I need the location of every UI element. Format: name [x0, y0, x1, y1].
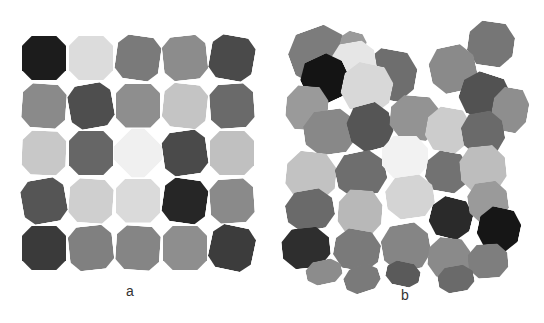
panel-a-ordered-grid	[20, 34, 260, 276]
cube-r5-c2	[67, 224, 115, 272]
cube-r3-c2	[69, 131, 113, 175]
cube-r2-c4	[161, 81, 209, 129]
cube-r1-c4	[161, 34, 209, 82]
cube-r1-c2	[69, 36, 113, 80]
cube-r3-c4	[160, 128, 210, 178]
cube-r2-c1	[21, 82, 68, 129]
cube-r4-c2	[68, 177, 115, 224]
cube-r2-c2	[66, 80, 117, 131]
cube-r1-c5	[207, 33, 258, 84]
cube-r4-c3	[116, 179, 160, 223]
cube	[382, 136, 428, 178]
cube-r4-c5	[209, 177, 256, 224]
cube-r5-c1	[22, 226, 66, 270]
cube-r2-c5	[209, 82, 256, 129]
cube-r5-c5	[206, 222, 258, 274]
panel-label-b: b	[401, 287, 409, 303]
cube-r5-c4	[163, 226, 207, 270]
cube-r5-c3	[115, 225, 162, 272]
cube-r3-c1	[21, 130, 67, 176]
cube-r2-c3	[116, 84, 160, 128]
cube-r4-c1	[19, 175, 70, 226]
panel-b-disordered-cluster	[282, 12, 530, 294]
cube-r3-c5	[210, 131, 254, 175]
cube	[336, 189, 383, 238]
cube-r3-c3	[107, 122, 169, 184]
cube-r1-c3	[113, 33, 163, 83]
cube-r1-c1	[22, 36, 66, 80]
panel-label-a: a	[126, 283, 134, 299]
cube-r4-c4	[160, 176, 210, 226]
